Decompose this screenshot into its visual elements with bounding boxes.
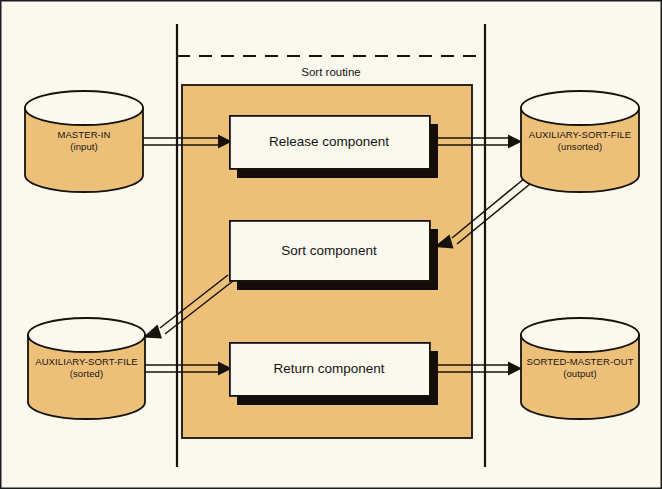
diagram-graphics bbox=[0, 0, 662, 489]
sort-component-box[interactable] bbox=[230, 221, 438, 290]
release-component-box[interactable] bbox=[230, 116, 438, 178]
diagram-canvas: Sort routine Release component Sort comp… bbox=[0, 0, 662, 489]
datastore-master-in[interactable] bbox=[25, 91, 143, 192]
datastore-auxiliary-sort-file-unsorted[interactable] bbox=[521, 91, 639, 192]
datastore-auxiliary-sort-file-sorted[interactable] bbox=[28, 318, 145, 419]
return-component-box[interactable] bbox=[230, 343, 438, 405]
datastore-sorted-master-out[interactable] bbox=[521, 318, 639, 419]
